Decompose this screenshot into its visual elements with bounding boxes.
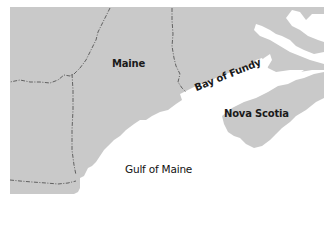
label-gulf-of-maine: Gulf of Maine (125, 163, 192, 175)
label-nova-scotia: Nova Scotia (224, 108, 289, 119)
label-maine: Maine (112, 58, 145, 69)
